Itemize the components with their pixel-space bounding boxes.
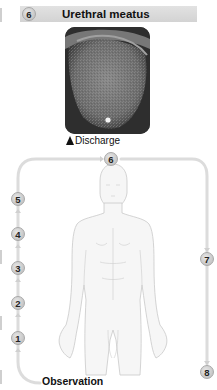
step-circle-4: 4 xyxy=(11,227,25,241)
step-circle-8: 8 xyxy=(200,365,214,379)
flow-diagram xyxy=(0,0,217,390)
step-circle-6: 6 xyxy=(104,152,118,166)
step-circle-2: 2 xyxy=(11,296,25,310)
observation-label: Observation xyxy=(42,375,103,387)
step-circle-3: 3 xyxy=(11,261,25,275)
step-circle-1: 1 xyxy=(11,331,25,345)
step-circle-7: 7 xyxy=(200,252,214,266)
step-circle-5: 5 xyxy=(11,192,25,206)
